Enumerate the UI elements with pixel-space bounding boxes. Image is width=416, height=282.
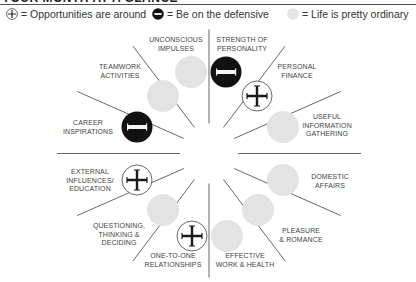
- segment-label-unconscious-impulses: UNCONSCIOUS IMPULSES: [149, 36, 203, 53]
- neutral-icon: [147, 194, 179, 226]
- neutral-icon: [267, 164, 299, 196]
- segment-label-career-inspirations: CAREER INSPIRATIONS: [63, 119, 113, 136]
- segment-label-domestic-affairs: DOMESTIC AFFAIRS: [311, 173, 349, 190]
- segment-label-personal-finance: PERSONAL FINANCE: [278, 63, 317, 80]
- segment-label-strength-of-personality: STRENGTH OF PERSONALITY: [216, 36, 267, 53]
- neutral-icon: [242, 194, 274, 226]
- plus-icon: [177, 221, 207, 251]
- plus-icon: [242, 81, 272, 111]
- segment-label-teamwork-activities: TEAMWORK ACTIVITIES: [99, 63, 141, 80]
- minus-icon: [211, 57, 242, 88]
- segment-label-effective-work-health: EFFECTIVE WORK & HEALTH: [216, 252, 275, 269]
- segment-label-questioning-thinking-deciding: QUESTIONING, THINKING & DECIDING: [93, 222, 145, 248]
- segment-label-external-influences-education: EXTERNAL INFLUENCES/ EDUCATION: [66, 168, 113, 194]
- wheel-markers: [122, 56, 300, 252]
- neutral-icon: [211, 220, 243, 252]
- segment-label-pleasure-romance: PLEASURE & ROMANCE: [279, 227, 322, 244]
- segment-label-useful-information-gathering: USEFUL INFORMATION GATHERING: [302, 113, 352, 139]
- neutral-icon: [175, 56, 207, 88]
- segment-label-one-to-one-relationships: ONE-TO-ONE RELATIONSHIPS: [145, 252, 202, 269]
- month-wheel-diagram: [0, 0, 416, 282]
- neutral-icon: [147, 80, 179, 112]
- neutral-icon: [267, 111, 299, 143]
- minus-icon: [122, 112, 153, 143]
- plus-icon: [122, 165, 152, 195]
